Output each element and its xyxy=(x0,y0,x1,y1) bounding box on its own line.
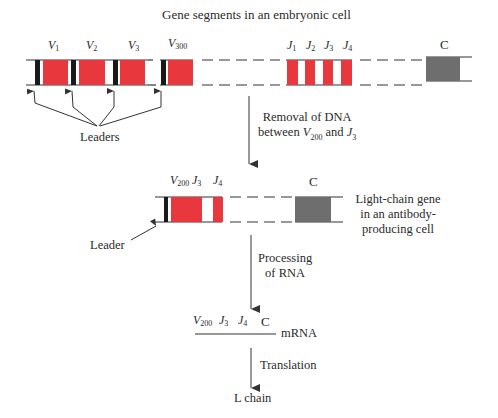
label-v300: V300 xyxy=(168,36,187,51)
label-j3: J3 xyxy=(324,38,333,53)
l-chain-label: L chain xyxy=(234,391,271,406)
description-line1: Light-chain gene xyxy=(352,192,444,207)
leaders-arrows xyxy=(34,91,161,126)
processing-line2: of RNA xyxy=(258,266,312,281)
processing-label: Processing of RNA xyxy=(258,251,312,281)
label-r-v200: V200 xyxy=(170,173,189,188)
removal-line2: between V200 and J3 xyxy=(258,125,356,142)
label-m-v200: V200 xyxy=(193,313,212,328)
rearranged-leader xyxy=(164,197,168,222)
removal-label: Removal of DNA between V200 and J3 xyxy=(258,110,356,142)
constant-segment xyxy=(426,57,460,81)
rearranged-v200 xyxy=(171,197,202,222)
description-line3: producing cell xyxy=(352,222,444,237)
label-m-j4: J4 xyxy=(238,313,247,328)
label-j4: J4 xyxy=(343,38,352,53)
mrna-label: mRNA xyxy=(281,326,317,341)
label-j2: J2 xyxy=(306,38,315,53)
label-v3: V3 xyxy=(128,38,139,53)
processing-line1: Processing xyxy=(258,251,312,266)
light-chain-description: Light-chain gene in an antibody- produci… xyxy=(352,192,444,237)
description-line2: in an antibody- xyxy=(352,207,444,222)
rearranged-j4 xyxy=(213,197,223,222)
label-m-j3: J3 xyxy=(219,313,228,328)
label-r-j3: J3 xyxy=(192,173,201,188)
rearranged-constant xyxy=(295,197,331,222)
removal-line1: Removal of DNA xyxy=(258,110,356,125)
label-m-c: C xyxy=(261,314,270,330)
label-j1: J1 xyxy=(287,38,296,53)
label-v2: V2 xyxy=(86,38,97,53)
label-c-embryonic: C xyxy=(440,37,449,53)
label-v1: V1 xyxy=(48,38,59,53)
j-segments xyxy=(287,60,352,85)
translation-label: Translation xyxy=(260,358,317,373)
label-c-rearranged: C xyxy=(309,174,318,190)
diagram-title: Gene segments in an embryonic cell xyxy=(162,7,351,23)
leader-pointer xyxy=(131,226,156,240)
leader-label: Leader xyxy=(90,238,125,253)
label-r-j4: J4 xyxy=(213,173,222,188)
leaders-label: Leaders xyxy=(80,130,120,145)
